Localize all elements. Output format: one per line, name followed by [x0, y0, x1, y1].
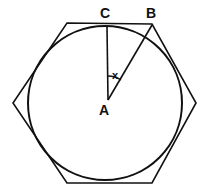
segment-ab-line: [108, 25, 152, 100]
angle-label-x: x: [112, 70, 118, 81]
point-label-b: B: [146, 6, 156, 20]
segment-ac-line: [107, 27, 108, 100]
point-label-c: C: [100, 6, 110, 20]
figure-canvas: [0, 0, 208, 195]
geometry-figure: C B A x: [0, 0, 208, 195]
point-label-a: A: [99, 103, 109, 117]
